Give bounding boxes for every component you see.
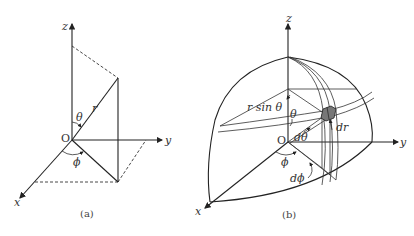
volume-element xyxy=(321,106,336,121)
y-projection-dashed xyxy=(118,140,146,182)
r-sin-theta-label: r sin θ xyxy=(247,101,282,114)
x-axis-label-b: x xyxy=(195,205,202,218)
d-phi-label: dϕ xyxy=(290,172,305,185)
radius-label: r xyxy=(92,102,98,115)
phi-label-b: ϕ xyxy=(281,156,289,169)
x-axis-label: x xyxy=(14,196,21,209)
theta-label-b: θ xyxy=(290,108,297,121)
origin-label: O xyxy=(61,132,70,145)
spherical-coordinates-figure: z y x O r θ ϕ (a) xyxy=(0,0,414,236)
z-projection-dashed xyxy=(72,46,118,78)
panel-b: z y x O r sin θ θ dθ dr ϕ dϕ (b) xyxy=(195,12,407,220)
phi-projection-line-2 xyxy=(288,142,330,175)
y-axis-label-b: y xyxy=(399,136,407,149)
origin-label-b: O xyxy=(277,134,286,147)
dr-label: dr xyxy=(336,121,349,134)
theta-label: θ xyxy=(76,111,83,124)
sphere-xz-arc xyxy=(208,57,288,202)
phi-label: ϕ xyxy=(73,156,81,169)
z-axis-label-b: z xyxy=(285,12,292,25)
base-edge xyxy=(322,168,336,180)
x-axis xyxy=(20,140,72,198)
d-phi-pointer xyxy=(308,163,312,178)
caption-b: (b) xyxy=(282,209,296,220)
d-theta-label: dθ xyxy=(294,131,308,144)
phi-arc xyxy=(62,151,83,155)
y-axis-label: y xyxy=(164,134,172,147)
panel-a: z y x O r θ ϕ (a) xyxy=(14,20,172,219)
phi-arc-b xyxy=(276,152,296,155)
z-axis-label: z xyxy=(61,20,68,33)
caption-a: (a) xyxy=(80,208,94,219)
